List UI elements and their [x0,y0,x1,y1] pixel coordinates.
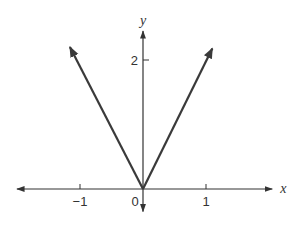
left-branch-line [70,47,143,189]
x-tick-label: 1 [202,194,209,209]
chart: −112 x y 0 [0,0,302,225]
x-tick-label: −1 [73,194,88,209]
origin-label: 0 [131,194,138,209]
y-tick-label: 2 [131,53,138,68]
right-branch-line [143,48,212,189]
y-axis-label: y [138,13,147,28]
x-axis-label: x [279,181,287,196]
